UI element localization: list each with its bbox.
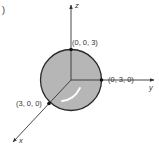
point-x-intercept bbox=[47, 102, 51, 106]
z-intercept-label: (0, 0, 3) bbox=[72, 39, 98, 47]
panel-label: ) bbox=[2, 6, 5, 15]
diagram-canvas bbox=[0, 0, 159, 148]
z-axis-label: z bbox=[75, 2, 79, 10]
point-y-intercept bbox=[100, 78, 104, 82]
y-axis-label: y bbox=[149, 84, 153, 92]
x-axis-label: x bbox=[19, 137, 23, 145]
x-intercept-label: (3, 0, 0) bbox=[16, 100, 42, 108]
y-intercept-label: (0, 3, 0) bbox=[108, 76, 134, 84]
sphere-diagram: ) z y x (0, 0, 3) (0, 3, 0) (3, 0, 0) bbox=[0, 0, 159, 148]
point-z-intercept bbox=[69, 48, 73, 52]
